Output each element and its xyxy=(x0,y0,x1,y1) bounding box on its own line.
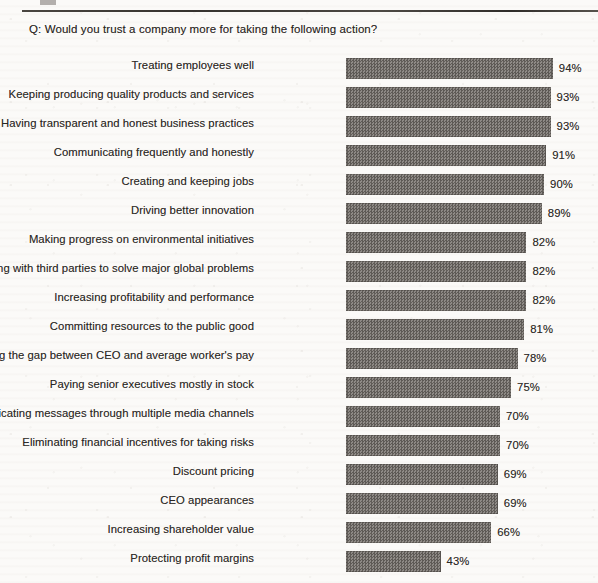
bar-value-label: 70% xyxy=(506,410,529,422)
bar xyxy=(346,203,542,224)
bar-track: 94% xyxy=(346,58,598,79)
bar xyxy=(346,493,498,514)
chart-row: CEO appearances69% xyxy=(0,490,598,519)
bar-chart: Treating employees well94%Keeping produc… xyxy=(0,55,598,577)
bar-value-label: 82% xyxy=(532,265,555,277)
bar-track: 78% xyxy=(346,348,598,369)
bar-track: 75% xyxy=(346,377,598,398)
category-label: Eliminating financial incentives for tak… xyxy=(0,436,254,448)
category-label: Making progress on environmental initiat… xyxy=(0,233,254,245)
category-label: Discount pricing xyxy=(0,465,254,477)
header-divider xyxy=(22,10,598,12)
bar xyxy=(346,174,544,195)
chart-row: Reducing the gap between CEO and average… xyxy=(0,345,598,374)
bar-value-label: 69% xyxy=(504,468,527,480)
bar-value-label: 66% xyxy=(497,526,520,538)
bar xyxy=(346,464,498,485)
bar-track: 69% xyxy=(346,464,598,485)
category-label: Reducing the gap between CEO and average… xyxy=(0,349,254,361)
bar-track: 70% xyxy=(346,406,598,427)
category-label: Paying senior executives mostly in stock xyxy=(0,378,254,390)
category-label: Protecting profit margins xyxy=(0,552,254,564)
chart-row: Discount pricing69% xyxy=(0,461,598,490)
category-label: Committing resources to the public good xyxy=(0,320,254,332)
category-label: Having transparent and honest business p… xyxy=(0,117,254,129)
bar xyxy=(346,87,551,108)
bar xyxy=(346,232,526,253)
chart-row: Treating employees well94% xyxy=(0,55,598,84)
chart-row: Increasing profitability and performance… xyxy=(0,287,598,316)
category-label: Increasing profitability and performance xyxy=(0,291,254,303)
category-label: CEO appearances xyxy=(0,494,254,506)
chart-row: Eliminating financial incentives for tak… xyxy=(0,432,598,461)
bar xyxy=(346,348,518,369)
bar-value-label: 81% xyxy=(530,323,553,335)
bar-track: 70% xyxy=(346,435,598,456)
category-label: Treating employees well xyxy=(0,59,254,71)
category-label: Increasing shareholder value xyxy=(0,523,254,535)
bar-track: 93% xyxy=(346,116,598,137)
chart-row: Communicating frequently and honestly91% xyxy=(0,142,598,171)
bar-value-label: 90% xyxy=(550,178,573,190)
chart-row: Committing resources to the public good8… xyxy=(0,316,598,345)
bar-value-label: 82% xyxy=(532,294,555,306)
bar-track: 66% xyxy=(346,522,598,543)
bar xyxy=(346,116,551,137)
bar xyxy=(346,290,526,311)
chart-row: Protecting profit margins43% xyxy=(0,548,598,577)
category-label: Partnering with third parties to solve m… xyxy=(0,262,254,274)
bar xyxy=(346,551,441,572)
bar xyxy=(346,145,546,166)
category-label: Communicating messages through multiple … xyxy=(0,407,254,419)
bar-track: 90% xyxy=(346,174,598,195)
chart-row: Making progress on environmental initiat… xyxy=(0,229,598,258)
bar-track: 82% xyxy=(346,232,598,253)
bar-value-label: 43% xyxy=(447,555,470,567)
bar-value-label: 89% xyxy=(548,207,571,219)
bar-track: 82% xyxy=(346,290,598,311)
bar xyxy=(346,319,524,340)
bar-track: 82% xyxy=(346,261,598,282)
bar-value-label: 69% xyxy=(504,497,527,509)
bar-value-label: 78% xyxy=(524,352,547,364)
chart-row: Creating and keeping jobs90% xyxy=(0,171,598,200)
category-label: Communicating frequently and honestly xyxy=(0,146,254,158)
bar-track: 81% xyxy=(346,319,598,340)
bar-value-label: 70% xyxy=(506,439,529,451)
chart-row: Driving better innovation89% xyxy=(0,200,598,229)
bar xyxy=(346,435,500,456)
bar-track: 69% xyxy=(346,493,598,514)
bar-value-label: 91% xyxy=(552,149,575,161)
bar-track: 91% xyxy=(346,145,598,166)
bar-track: 93% xyxy=(346,87,598,108)
scan-speck xyxy=(497,290,499,294)
bar-value-label: 82% xyxy=(532,236,555,248)
bar-track: 89% xyxy=(346,203,598,224)
chart-row: Communicating messages through multiple … xyxy=(0,403,598,432)
category-label: Keeping producing quality products and s… xyxy=(0,88,254,100)
category-label: Creating and keeping jobs xyxy=(0,175,254,187)
chart-row: Having transparent and honest business p… xyxy=(0,113,598,142)
category-label: Driving better innovation xyxy=(0,204,254,216)
bar xyxy=(346,261,526,282)
survey-question: Q: Would you trust a company more for ta… xyxy=(29,23,377,35)
bar-value-label: 94% xyxy=(559,62,582,74)
bar xyxy=(346,406,500,427)
bar-value-label: 93% xyxy=(557,120,580,132)
chart-row: Partnering with third parties to solve m… xyxy=(0,258,598,287)
bar-value-label: 93% xyxy=(557,91,580,103)
cropped-title-remnant xyxy=(40,0,56,5)
bar-track: 43% xyxy=(346,551,598,572)
chart-row: Increasing shareholder value66% xyxy=(0,519,598,548)
bar xyxy=(346,58,553,79)
chart-row: Paying senior executives mostly in stock… xyxy=(0,374,598,403)
bar xyxy=(346,522,491,543)
bar-value-label: 75% xyxy=(517,381,540,393)
bar xyxy=(346,377,511,398)
chart-row: Keeping producing quality products and s… xyxy=(0,84,598,113)
